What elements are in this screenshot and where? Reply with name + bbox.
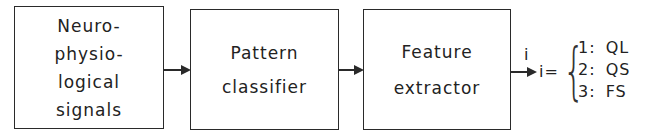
output-arrow-label: i: [524, 45, 529, 64]
block-pattern-classifier: Pattern classifier: [190, 9, 339, 130]
case-index: 2:: [578, 60, 596, 79]
block-text-line: signals: [56, 96, 122, 124]
case-label: QS: [606, 60, 631, 79]
block-text-line: Pattern: [230, 36, 298, 70]
arrow-extractor-output: [511, 71, 535, 73]
case-index: 3:: [578, 82, 596, 101]
block-text-line: extractor: [394, 70, 481, 106]
case-label: FS: [606, 82, 627, 101]
block-neurophysiological-signals: Neuro- physio- logical signals: [14, 6, 164, 129]
output-case-1: 1: QL: [578, 38, 629, 58]
block-text-line: Feature: [401, 34, 472, 70]
arrow-classifier-to-extractor: [339, 69, 362, 71]
output-equation-lhs: i=: [539, 62, 559, 81]
case-label: QL: [606, 38, 630, 57]
block-text-line: logical: [58, 68, 120, 96]
block-feature-extractor: Feature extractor: [363, 9, 511, 130]
arrow-signals-to-classifier: [164, 69, 189, 71]
block-text-line: physio-: [54, 40, 123, 68]
output-case-3: 3: FS: [578, 82, 627, 102]
case-index: 1:: [578, 38, 596, 57]
block-text-line: classifier: [222, 70, 307, 104]
output-case-2: 2: QS: [578, 60, 630, 80]
block-text-line: Neuro-: [57, 12, 120, 40]
